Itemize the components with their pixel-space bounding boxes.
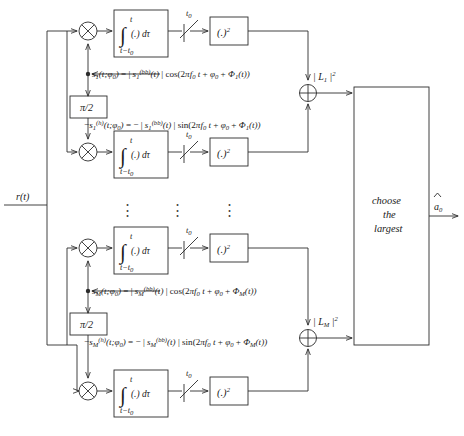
integral-upper-limit-cos-M: t [130,232,133,241]
sampler-label-cos-1: t0 [186,9,192,19]
integral-body-sin-1: (.) dτ [131,150,151,161]
ellipsis-group: ⋮ ⋮ ⋮ [120,202,237,218]
square-label-sin-1: (.)2 [217,147,231,160]
integral-lower-limit-sin-1: t−t0 [120,167,134,177]
integral-upper-limit-sin-M: t [130,375,133,384]
equation-sin-branch-1: −s1(h)(t;φ0) = − | s1(bb)(t) | sin(2πf0 … [84,119,261,131]
ellipsis-col-3: ⋮ [222,202,237,218]
integral-upper-limit-cos-1: t [130,15,133,24]
equation-cos-branch-1: s1(t;φ0) = | s1(bb)(t) | cos(2πf0 t + φ0… [92,68,250,80]
integral-symbol-cos-M: ∫ [118,240,127,265]
integral-symbol-cos-1: ∫ [118,23,127,48]
integral-body-cos-1: (.) dτ [131,29,151,40]
square-label-sin-M: (.)2 [217,386,231,399]
decision-block-group: choose the largest a0 [354,87,458,345]
output-hat-accent [434,193,441,197]
integral-lower-limit-sin-M: t−t0 [120,406,134,416]
equation-cos-branch-M: sM(t;φ0) = | sM(bb)(t) | cos(2πf0 t + φ0… [92,285,256,297]
phase-shifter-label-1: π/2 [80,102,93,113]
decision-label-line3: largest [374,223,404,234]
output-label: a0 [434,201,443,213]
integral-body-cos-M: (.) dτ [131,246,151,257]
b1-sampler-blade-sin [180,141,198,159]
integral-symbol-sin-1: ∫ [118,144,127,169]
integral-symbol-sin-M: ∫ [118,383,127,408]
branch-1-group: π/2 s1(t;φ0) = | s1(bb)(t) | cos(2πf0 t … [47,9,352,178]
branch-M-group: π/2 sM(t;φ0) = | sM(bb)(t) | cos(2πf0 t … [47,226,352,417]
integral-lower-limit-cos-1: t−t0 [120,46,134,56]
phase-shifter-label-M: π/2 [80,319,93,330]
likelihood-label-branch-M: | LM |2 [313,315,339,328]
sampler-label-cos-M: t0 [186,226,192,236]
integral-body-sin-M: (.) dτ [131,389,151,400]
integral-upper-limit-sin-1: t [130,136,133,145]
input-signal-group: r(t) [4,31,47,345]
b1-sampler-blade-cos [180,20,198,38]
sampler-label-sin-1: t0 [186,130,192,140]
square-label-cos-M: (.)2 [217,243,231,256]
equation-sin-branch-M: −sM(h)(t;φ0) = − | sM(bb)(t) | sin(2πf0 … [84,336,267,348]
decision-label-line2: the [383,209,396,220]
integral-lower-limit-cos-M: t−t0 [120,263,134,273]
sampler-label-sin-M: t0 [186,369,192,379]
bM-sampler-blade-cos [180,237,198,255]
ellipsis-col-2: ⋮ [170,202,185,218]
square-label-cos-1: (.)2 [217,26,231,39]
input-label: r(t) [16,191,30,203]
decision-label-line1: choose [372,195,401,206]
likelihood-label-branch-1: | L1 |2 [313,70,336,83]
bM-sampler-blade-sin [180,380,198,398]
block-diagram-canvas: r(t) π/2 s1(t;φ0) = | s1(bb)(t) | cos(2π… [0,0,464,436]
ellipsis-col-1: ⋮ [120,202,135,218]
